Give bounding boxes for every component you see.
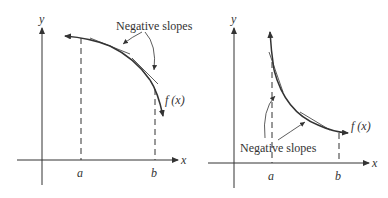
- tangent-line-1: [269, 52, 283, 92]
- function-curve: [65, 36, 150, 80]
- annotation-arrow-2: [145, 32, 155, 70]
- left-figure: x y a b Negative slopes f (x): [17, 12, 193, 185]
- y-axis-label: y: [38, 12, 45, 26]
- x-axis-label: x: [180, 153, 187, 167]
- tick-b: b: [151, 166, 157, 180]
- function-label: f (x): [165, 93, 185, 107]
- tangent-line-1: [90, 38, 130, 54]
- annotation-arrow-1: [123, 32, 142, 44]
- y-axis-label: y: [230, 12, 237, 26]
- annotation-negative-slopes: Negative slopes: [240, 141, 317, 155]
- annotation-arrow-1: [264, 96, 275, 138]
- diagram-canvas: x y a b Negative slopes f (x) x y a b Ne…: [0, 0, 388, 198]
- tick-b: b: [335, 169, 341, 183]
- tick-a: a: [77, 166, 83, 180]
- function-label: f (x): [351, 119, 371, 133]
- x-axis-label: x: [371, 156, 378, 170]
- function-curve-end: [150, 80, 163, 116]
- right-figure: x y a b Negative slopes f (x): [208, 12, 378, 188]
- annotation-arrow-2: [278, 122, 305, 140]
- annotation-negative-slopes: Negative slopes: [116, 19, 193, 33]
- tangent-line-2: [300, 112, 330, 130]
- function-curve-end: [274, 70, 348, 133]
- tick-a: a: [268, 169, 274, 183]
- tangent-line-2: [132, 58, 158, 84]
